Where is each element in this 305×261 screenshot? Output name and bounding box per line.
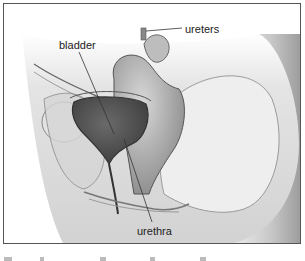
ureters-leader (146, 28, 182, 31)
urethra-label: urethra (137, 226, 172, 237)
ureters-label: ureters (185, 24, 219, 35)
ureter-stub (141, 28, 146, 40)
figure-frame: ureters bladder urethra (3, 3, 301, 244)
caption-truncated (0, 248, 305, 261)
anatomy-illustration (4, 4, 301, 244)
bladder-label: bladder (59, 40, 96, 51)
